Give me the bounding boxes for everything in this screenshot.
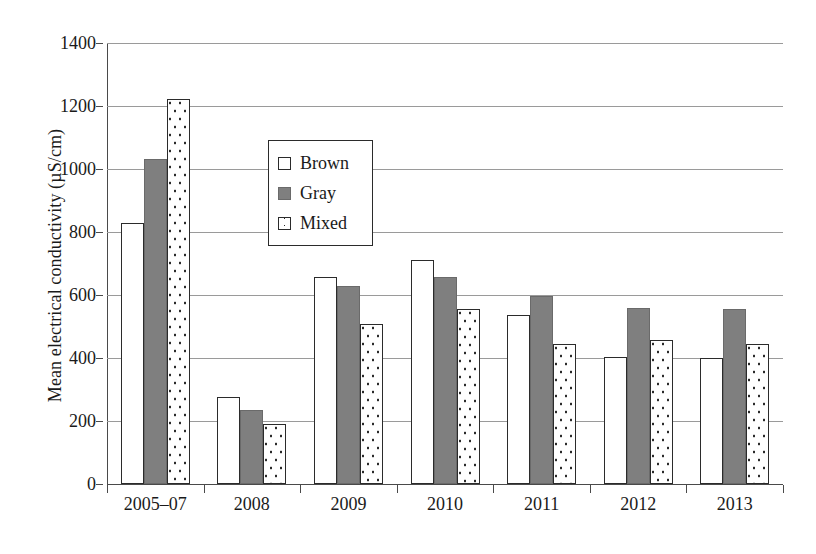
- gridline: [107, 232, 783, 233]
- bar: [240, 410, 263, 484]
- x-tick-mark: [397, 485, 398, 493]
- x-tick-mark: [493, 485, 494, 493]
- x-tick-label: 2012: [590, 494, 687, 516]
- x-tick-mark: [686, 485, 687, 493]
- bar: [411, 260, 434, 484]
- y-tick-label: 1200: [36, 97, 96, 115]
- bar: [553, 344, 576, 484]
- y-tick-label: 600: [36, 286, 96, 304]
- gridline: [107, 106, 783, 107]
- bar: [263, 424, 286, 484]
- y-tick-mark: [96, 106, 103, 107]
- bar: [457, 309, 480, 484]
- y-tick-mark: [96, 358, 103, 359]
- legend-item: Brown: [278, 148, 372, 178]
- y-tick-mark: [96, 169, 103, 170]
- y-tick-mark: [96, 484, 103, 485]
- x-axis-tick-labels: 2005–07200820092010201120122013: [107, 494, 783, 524]
- bar: [434, 277, 457, 484]
- bar: [650, 340, 673, 484]
- x-tick-label: 2009: [300, 494, 397, 516]
- legend-item: Mixed: [278, 208, 372, 238]
- y-tick-mark: [96, 232, 103, 233]
- bar: [144, 159, 167, 484]
- bar-chart: Mean electrical conductivity (µS/cm) 020…: [0, 0, 816, 554]
- bar: [167, 99, 190, 484]
- x-tick-mark: [300, 485, 301, 493]
- y-axis-tick-labels: 0200400600800100012001400: [32, 43, 96, 484]
- bar: [723, 309, 746, 484]
- bar: [507, 315, 530, 484]
- solid-square-swatch: [278, 187, 291, 200]
- gridline: [107, 43, 783, 44]
- legend: BrownGrayMixed: [268, 140, 373, 246]
- bar: [746, 344, 769, 484]
- bar: [217, 397, 240, 484]
- legend-item-label: Brown: [300, 154, 349, 172]
- x-tick-label: 2008: [204, 494, 301, 516]
- open-square-swatch: [278, 157, 291, 170]
- x-tick-label: 2010: [397, 494, 494, 516]
- bar: [314, 277, 337, 484]
- y-tick-label: 400: [36, 349, 96, 367]
- x-tick-label: 2013: [686, 494, 783, 516]
- bar: [627, 308, 650, 484]
- y-tick-label: 0: [36, 475, 96, 493]
- y-tick-label: 800: [36, 223, 96, 241]
- dotted-square-swatch: [278, 217, 291, 230]
- bar: [121, 223, 144, 484]
- bar: [604, 357, 627, 484]
- x-tick-label: 2011: [493, 494, 590, 516]
- x-tick-mark: [107, 485, 108, 493]
- x-tick-label: 2005–07: [107, 494, 204, 516]
- bar: [700, 358, 723, 484]
- x-tick-mark: [783, 485, 784, 493]
- legend-item-label: Mixed: [300, 214, 347, 232]
- y-tick-mark: [96, 421, 103, 422]
- y-tick-mark: [96, 295, 103, 296]
- legend-item-label: Gray: [300, 184, 336, 202]
- x-tick-mark: [204, 485, 205, 493]
- bar: [360, 324, 383, 484]
- y-tick-mark: [96, 43, 103, 44]
- legend-item: Gray: [278, 178, 372, 208]
- y-tick-label: 1400: [36, 34, 96, 52]
- bar: [337, 286, 360, 484]
- x-tick-mark: [590, 485, 591, 493]
- y-tick-label: 200: [36, 412, 96, 430]
- gridline: [107, 169, 783, 170]
- y-tick-label: 1000: [36, 160, 96, 178]
- bar: [530, 296, 553, 484]
- plot-area: [107, 43, 783, 484]
